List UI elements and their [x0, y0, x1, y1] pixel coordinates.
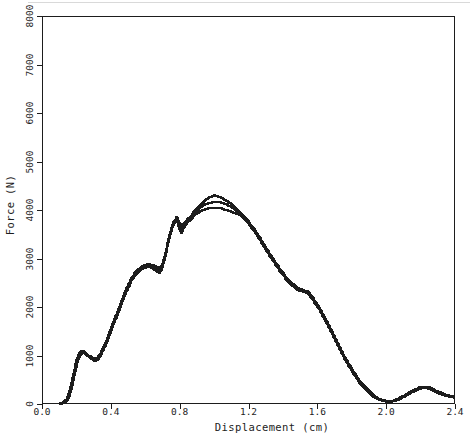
- y-tick-label: 7000: [24, 53, 35, 76]
- x-tick-label: 0.0: [33, 406, 50, 417]
- y-tick-label: 4000: [24, 199, 35, 222]
- data-series-trace_high: [59, 195, 455, 404]
- y-tick-label: 2000: [24, 296, 35, 319]
- y-tick-label: 5000: [24, 150, 35, 173]
- x-axis-title: Displacement (cm): [215, 421, 329, 433]
- x-tick-label: 2.4: [446, 406, 463, 417]
- x-tick-label: 0.4: [102, 406, 119, 417]
- chart-figure: Force (N) Displacement (cm) 0.00.40.81.2…: [0, 0, 470, 441]
- data-series-trace_middle: [59, 202, 455, 404]
- y-tick-label: 3000: [24, 247, 35, 270]
- y-tick-label: 1000: [24, 344, 35, 367]
- y-tick-label: 0: [24, 401, 35, 407]
- y-axis-title: Force (N): [4, 175, 16, 236]
- force-displacement-plot: [0, 0, 470, 441]
- y-tick-label: 6000: [24, 102, 35, 125]
- x-tick-label: 0.8: [171, 406, 188, 417]
- x-tick-label: 1.6: [309, 406, 326, 417]
- y-tick-label: 8000: [24, 5, 35, 28]
- x-tick-label: 2.0: [378, 406, 395, 417]
- x-tick-label: 1.2: [240, 406, 257, 417]
